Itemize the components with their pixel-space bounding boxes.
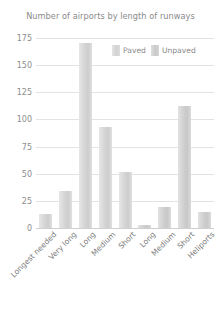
y-axis-tick-label: 0 bbox=[27, 224, 32, 233]
plot-area: 0255075100125150175 bbox=[36, 38, 214, 228]
y-axis-tick-label: 50 bbox=[22, 169, 32, 178]
x-axis-tick-label: Short bbox=[117, 230, 138, 251]
bar bbox=[39, 214, 52, 228]
y-axis-tick-label: 150 bbox=[17, 61, 32, 70]
bar bbox=[119, 172, 132, 228]
chart-container: Number of airports by length of runways … bbox=[0, 0, 221, 313]
bar-series bbox=[36, 38, 214, 228]
gridline bbox=[36, 228, 214, 229]
bar bbox=[138, 225, 151, 228]
bar bbox=[59, 191, 72, 228]
y-axis-tick-label: 75 bbox=[22, 142, 32, 151]
y-axis-tick-label: 100 bbox=[17, 115, 32, 124]
y-axis-tick-label: 125 bbox=[17, 88, 32, 97]
y-axis-tick-label: 175 bbox=[17, 34, 32, 43]
bar bbox=[198, 212, 211, 228]
bar bbox=[79, 43, 92, 228]
chart-title: Number of airports by length of runways bbox=[0, 11, 221, 21]
x-axis-labels: Longest neededVery longLongMediumShortLo… bbox=[36, 230, 221, 313]
y-axis-tick-label: 25 bbox=[22, 196, 32, 205]
bar bbox=[99, 127, 112, 228]
bar bbox=[158, 207, 171, 228]
bar bbox=[178, 106, 191, 228]
